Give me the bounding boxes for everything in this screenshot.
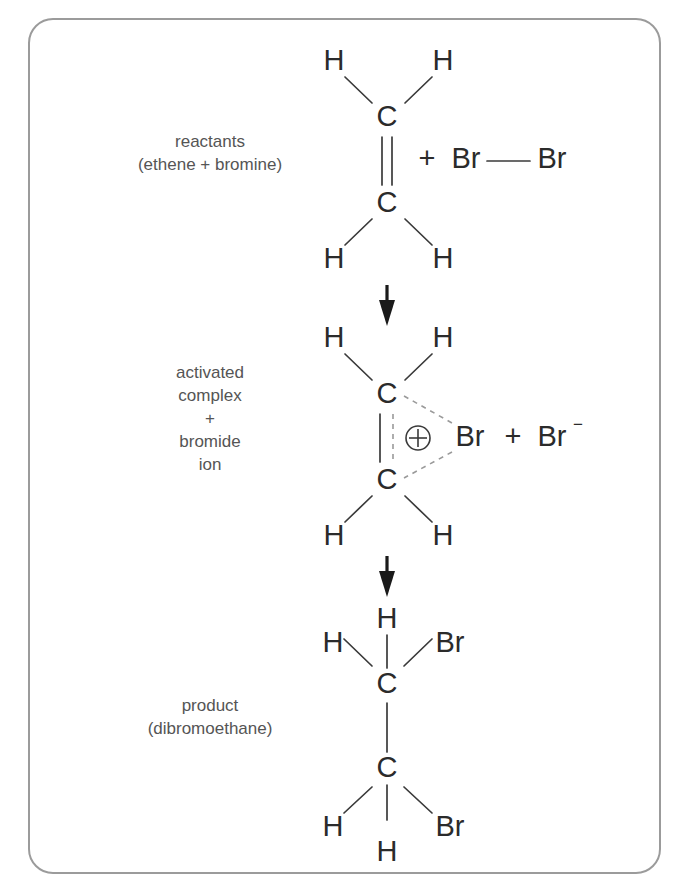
reactants-label-line-2: (ethene + bromine) xyxy=(138,155,282,174)
complex-label-line-3: + xyxy=(205,409,215,428)
complex-bond-c-to-h-bottom-right xyxy=(405,496,432,522)
complex-atom-h-top-left: H xyxy=(324,321,345,353)
product-atom-h-bottom-left: H xyxy=(323,810,344,842)
product-bond-c-to-h-bottom-left xyxy=(344,787,372,813)
complex-label-line-5: ion xyxy=(199,455,222,474)
product-bond-br-to-c-top-right xyxy=(404,639,432,666)
arrow-1-head xyxy=(379,300,395,326)
product-atom-h-bottom: H xyxy=(377,835,398,867)
arrow-2-head xyxy=(379,571,395,597)
product-bond-h-to-c-top-left xyxy=(344,639,372,666)
stage-product: product (dibromoethane) H H Br C C H H B… xyxy=(148,602,465,867)
complex-bond-h-to-c-top-right xyxy=(405,354,432,380)
stage-activated-complex: activated complex + bromide ion H H C C … xyxy=(176,321,583,551)
atom-h-bottom-left: H xyxy=(324,242,345,274)
product-atom-c-bottom: C xyxy=(377,751,398,783)
reaction-diagram-canvas: reactants (ethene + bromine) H H C C H H… xyxy=(0,0,683,891)
complex-bridge-dashed-lower xyxy=(404,452,452,478)
bond-h-to-c-top-right xyxy=(405,77,432,103)
complex-atom-c-bottom: C xyxy=(377,463,398,495)
product-atom-h-top: H xyxy=(377,602,398,634)
complex-atom-h-top-right: H xyxy=(433,321,454,353)
product-label-line-1: product xyxy=(182,696,239,715)
reaction-mechanism-figure: reactants (ethene + bromine) H H C C H H… xyxy=(0,0,683,891)
complex-atom-h-bottom-right: H xyxy=(433,519,454,551)
stage-reactants: reactants (ethene + bromine) H H C C H H… xyxy=(138,44,567,274)
atom-h-top-left: H xyxy=(324,44,345,76)
product-atom-h-top-left: H xyxy=(323,626,344,658)
reactants-label-line-1: reactants xyxy=(175,132,245,151)
atom-br-right: Br xyxy=(538,142,567,174)
complex-atom-c-top: C xyxy=(377,377,398,409)
complex-label-line-4: bromide xyxy=(179,432,240,451)
atom-c-bottom: C xyxy=(377,186,398,218)
product-atom-c-top: C xyxy=(377,667,398,699)
bromide-ion-charge: − xyxy=(573,415,583,434)
bond-c-to-h-bottom-right xyxy=(405,219,432,245)
atom-br-left: Br xyxy=(452,142,481,174)
product-atom-br-bottom-right: Br xyxy=(436,810,465,842)
bond-c-to-h-bottom-left xyxy=(345,219,372,245)
complex-atom-br-bonded: Br xyxy=(456,420,485,452)
complex-bond-c-to-h-bottom-left xyxy=(345,496,372,522)
complex-plus-sign: + xyxy=(505,420,522,452)
complex-bond-h-to-c-top-left xyxy=(345,354,372,380)
atom-c-top: C xyxy=(377,100,398,132)
arrow-reactants-to-complex xyxy=(379,285,395,326)
atom-h-top-right: H xyxy=(433,44,454,76)
complex-label-line-2: complex xyxy=(178,386,242,405)
reactants-plus-sign: + xyxy=(419,142,436,174)
product-atom-br-top-right: Br xyxy=(436,626,465,658)
complex-atom-br-ion: Br xyxy=(538,420,567,452)
product-bond-c-to-br-bottom-right xyxy=(404,787,432,813)
atom-h-bottom-right: H xyxy=(433,242,454,274)
arrow-complex-to-product xyxy=(379,556,395,597)
bond-h-to-c-top-left xyxy=(345,77,372,103)
complex-atom-h-bottom-left: H xyxy=(324,519,345,551)
complex-bridge-dashed-upper xyxy=(404,396,452,423)
complex-label-line-1: activated xyxy=(176,363,244,382)
product-label-line-2: (dibromoethane) xyxy=(148,719,273,738)
